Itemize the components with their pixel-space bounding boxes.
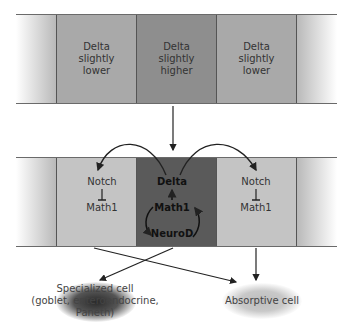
arrows-layer (0, 0, 347, 334)
delta-to-notch-right-arrow (180, 144, 256, 175)
left-to-absorptive-arrow (94, 248, 236, 282)
delta-to-notch-left-arrow (98, 144, 166, 175)
loop-right-arrow (193, 208, 199, 237)
loop-left-arrow (146, 207, 153, 235)
